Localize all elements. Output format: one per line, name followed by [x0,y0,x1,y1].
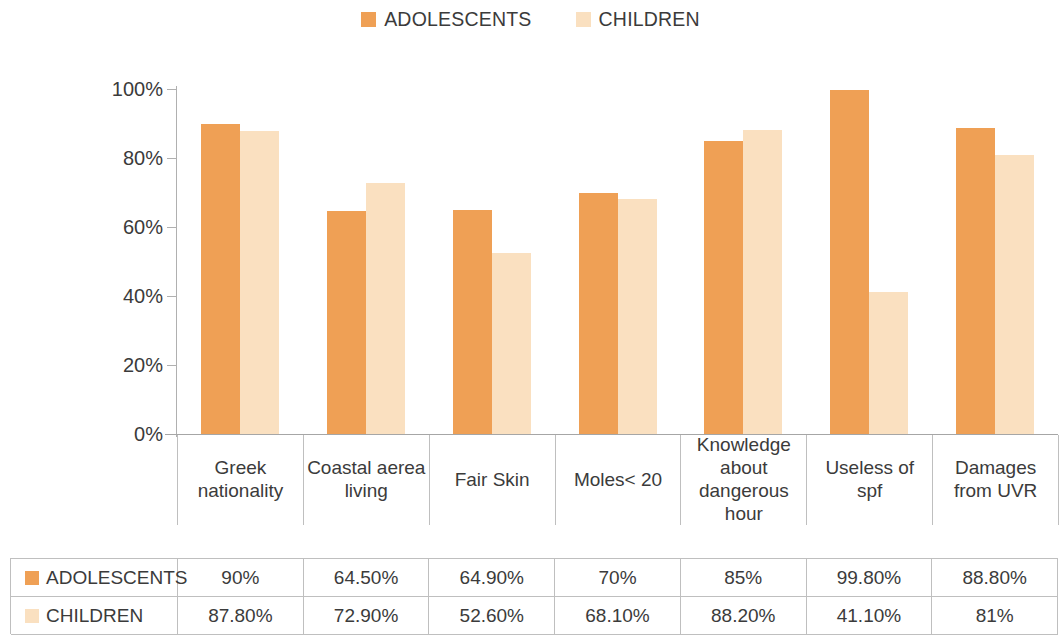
y-tick-label: 0% [93,424,163,444]
table-cell: 64.50% [304,559,430,596]
table-cells: 87.80%72.90%52.60%68.10%88.20%41.10%81% [178,597,1058,634]
category-label: Fair Skin [430,435,556,525]
bar-children [492,253,531,434]
bar-children [995,155,1034,434]
table-series-swatch [25,609,39,623]
legend-swatch-adolescents [361,12,376,27]
bar-group [177,89,303,434]
category-label-row: Greek nationalityCoastal aerea livingFai… [177,435,1059,525]
bar-group [932,89,1058,434]
y-tick-label: 20% [93,355,163,375]
bar-adolescents [327,211,366,434]
table-cell: 85% [681,559,807,596]
bar-group [806,89,932,434]
bar-adolescents [704,141,743,434]
table-series-name: CHILDREN [46,605,143,627]
table-cell: 99.80% [807,559,933,596]
y-axis-tick [167,158,177,159]
y-axis-tick [167,365,177,366]
bar-adolescents [956,128,995,434]
table-cell: 87.80% [178,597,304,634]
category-label: Coastal aerea living [304,435,430,525]
bar-children [743,130,782,434]
bar-group [303,89,429,434]
table-cell: 90% [178,559,304,596]
plot-area [177,89,1058,434]
data-table: ADOLESCENTS90%64.50%64.90%70%85%99.80%88… [10,558,1058,634]
category-label: Damages from UVR [933,435,1059,525]
bar-children [240,131,279,434]
legend-item-adolescents: ADOLESCENTS [361,8,531,31]
table-cell: 88.20% [681,597,807,634]
y-tick-label: 80% [93,148,163,168]
y-axis-tick [167,227,177,228]
y-tick-label: 100% [93,79,163,99]
bar-group [429,89,555,434]
bar-adolescents [201,124,240,435]
legend-label-children: CHILDREN [599,8,700,31]
bar-adolescents [830,90,869,434]
bar-group [680,89,806,434]
table-cell: 72.90% [304,597,430,634]
legend-item-children: CHILDREN [576,8,700,31]
table-cell: 88.80% [932,559,1058,596]
bar-groups [177,89,1058,434]
bar-group [555,89,681,434]
category-label: Moles< 20 [556,435,682,525]
legend-swatch-children [576,12,591,27]
table-cell: 64.90% [429,559,555,596]
table-cell: 70% [555,559,681,596]
bar-adolescents [453,210,492,434]
table-series-name: ADOLESCENTS [46,567,187,589]
y-tick-label: 60% [93,217,163,237]
table-row-label: ADOLESCENTS [11,559,178,596]
bar-adolescents [579,193,618,435]
table-cells: 90%64.50%64.90%70%85%99.80%88.80% [178,559,1058,596]
table-row: ADOLESCENTS90%64.50%64.90%70%85%99.80%88… [11,559,1058,597]
bar-children [869,292,908,434]
bar-children [618,199,657,434]
table-row-label: CHILDREN [11,597,178,634]
y-tick-label: 40% [93,286,163,306]
category-label: Greek nationality [178,435,304,525]
table-cell: 68.10% [555,597,681,634]
table-series-swatch [25,571,39,585]
legend-label-adolescents: ADOLESCENTS [384,8,531,31]
y-axis-tick [167,296,177,297]
y-axis-tick [167,89,177,90]
y-axis-labels: 100%80%60%40%20%0% [88,0,163,634]
category-label: Knowledge about dangerous hour [681,435,807,525]
table-row: CHILDREN87.80%72.90%52.60%68.10%88.20%41… [11,597,1058,635]
table-cell: 81% [932,597,1058,634]
table-cell: 52.60% [429,597,555,634]
category-label: Useless of spf [807,435,933,525]
bar-children [366,183,405,435]
table-cell: 41.10% [807,597,933,634]
